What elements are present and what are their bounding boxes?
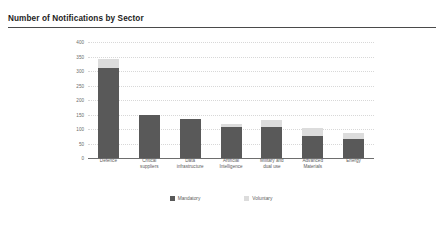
y-axis-tick-label: 250 [76, 83, 84, 88]
bar-stack[interactable] [221, 124, 242, 158]
bar-stack[interactable] [98, 59, 119, 158]
bar-slot [251, 42, 292, 158]
y-axis-tick-label: 200 [76, 98, 84, 103]
legend-swatch-voluntary [244, 196, 249, 201]
x-axis-tick-label: Datainfrastructure [170, 158, 211, 178]
y-axis-tick-label: 300 [76, 69, 84, 74]
y-axis-tick-label: 400 [76, 40, 84, 45]
bar-stack[interactable] [139, 115, 160, 158]
bar-slot [292, 42, 333, 158]
x-axis-tick-label: ArtificialIntelligence [211, 158, 252, 178]
y-axis-tick-labels: 050100150200250300350400 [62, 34, 88, 186]
bar-stack[interactable] [343, 133, 364, 159]
bar-group [88, 42, 374, 158]
page-title-block: Number of Notifications by Sector [8, 14, 436, 23]
legend-label: Voluntary [252, 196, 272, 201]
bar-segment-mandatory[interactable] [221, 127, 242, 158]
legend-label: Mandatory [178, 196, 201, 201]
bar-segment-mandatory[interactable] [98, 68, 119, 158]
bar-segment-voluntary[interactable] [98, 59, 119, 67]
bar-segment-mandatory[interactable] [180, 119, 201, 158]
bar-slot [211, 42, 252, 158]
chart-container: 050100150200250300350400 DefenceCritical… [62, 34, 380, 186]
x-axis-tick-label: Defence [88, 158, 129, 178]
bar-slot [129, 42, 170, 158]
y-axis-tick-label: 100 [76, 127, 84, 132]
bar-segment-mandatory[interactable] [261, 127, 282, 158]
x-axis-tick-label: AdvancedMaterials [292, 158, 333, 178]
bar-segment-voluntary[interactable] [261, 120, 282, 127]
bar-segment-mandatory[interactable] [343, 139, 364, 158]
legend-item[interactable]: Voluntary [244, 196, 272, 201]
x-axis-tick-label: Military anddual use [251, 158, 292, 178]
bar-segment-voluntary[interactable] [343, 133, 364, 140]
x-axis-tick-labels: DefenceCriticalsuppliersDatainfrastructu… [88, 158, 374, 178]
legend-item[interactable]: Mandatory [170, 196, 201, 201]
x-axis-tick-label: Energy [333, 158, 374, 178]
legend-swatch-mandatory [170, 196, 175, 201]
bar-segment-mandatory[interactable] [139, 115, 160, 158]
y-axis-tick-label: 50 [79, 141, 84, 146]
bar-segment-voluntary[interactable] [302, 128, 323, 135]
y-axis-tick-label: 0 [81, 156, 84, 161]
chart-page: Number of Notifications by Sector 050100… [0, 0, 444, 225]
page-title: Number of Notifications by Sector [8, 14, 436, 23]
bar-stack[interactable] [261, 120, 282, 158]
bar-slot [170, 42, 211, 158]
bar-stack[interactable] [180, 119, 201, 158]
title-divider [8, 27, 436, 28]
plot-area [88, 42, 374, 158]
bar-stack[interactable] [302, 128, 323, 158]
bar-slot [88, 42, 129, 158]
chart-legend: MandatoryVoluntary [62, 196, 380, 201]
y-axis-tick-label: 150 [76, 112, 84, 117]
bar-segment-mandatory[interactable] [302, 136, 323, 158]
y-axis-tick-label: 350 [76, 54, 84, 59]
x-axis-tick-label: Criticalsuppliers [129, 158, 170, 178]
bar-slot [333, 42, 374, 158]
